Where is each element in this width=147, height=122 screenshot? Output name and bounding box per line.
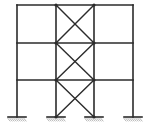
support-hatch bbox=[51, 119, 53, 122]
fixed-support-1 bbox=[8, 117, 26, 121]
joint-node bbox=[54, 41, 57, 44]
support-hatch bbox=[91, 119, 93, 122]
support-hatch bbox=[128, 119, 130, 122]
support-hatch bbox=[24, 119, 26, 122]
x-braces bbox=[54, 3, 95, 118]
support-hatch bbox=[63, 119, 65, 122]
support-hatch bbox=[140, 119, 142, 122]
joint-node bbox=[54, 78, 57, 81]
support-hatch bbox=[12, 119, 14, 122]
support-hatch bbox=[14, 119, 16, 122]
support-hatch bbox=[97, 119, 99, 122]
support-hatch bbox=[130, 119, 132, 122]
support-hatch bbox=[53, 119, 55, 122]
support-hatch bbox=[20, 119, 22, 122]
support-hatch bbox=[93, 119, 95, 122]
support-hatch bbox=[18, 119, 20, 122]
support-hatch bbox=[49, 119, 51, 122]
support-hatch bbox=[57, 119, 59, 122]
support-hatch bbox=[138, 119, 140, 122]
support-hatch bbox=[134, 119, 136, 122]
support-hatch bbox=[85, 119, 87, 122]
joint-node bbox=[92, 41, 95, 44]
support-hatch bbox=[136, 119, 138, 122]
support-hatch bbox=[8, 119, 10, 122]
support-hatch bbox=[55, 119, 57, 122]
support-hatch bbox=[99, 119, 101, 122]
fixed-supports bbox=[8, 117, 142, 121]
fixed-support-3 bbox=[85, 117, 103, 121]
support-hatch bbox=[95, 119, 97, 122]
support-hatch bbox=[124, 119, 126, 122]
joint-node bbox=[54, 3, 57, 6]
fixed-support-2 bbox=[47, 117, 65, 121]
support-hatch bbox=[126, 119, 128, 122]
support-hatch bbox=[10, 119, 12, 122]
braced-frame-diagram bbox=[0, 0, 147, 122]
joint-node bbox=[92, 3, 95, 6]
support-hatch bbox=[16, 119, 18, 122]
support-hatch bbox=[47, 119, 49, 122]
support-hatch bbox=[101, 119, 103, 122]
support-hatch bbox=[22, 119, 24, 122]
support-hatch bbox=[132, 119, 134, 122]
fixed-support-4 bbox=[124, 117, 142, 121]
support-hatch bbox=[59, 119, 61, 122]
joint-node bbox=[92, 78, 95, 81]
support-hatch bbox=[89, 119, 91, 122]
support-hatch bbox=[87, 119, 89, 122]
support-hatch bbox=[61, 119, 63, 122]
